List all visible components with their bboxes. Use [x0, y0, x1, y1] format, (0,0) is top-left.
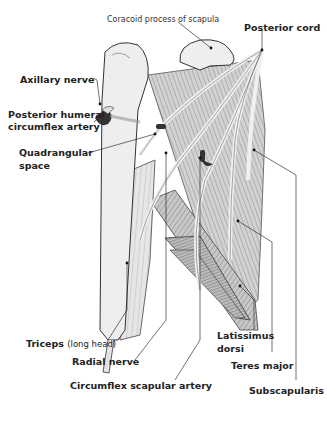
label-latissimus-2: dorsi	[217, 343, 244, 355]
label-triceps-sub: (long head)	[67, 339, 116, 349]
label-coracoid: Coracoid process of scapula	[107, 14, 219, 26]
shoulder-illustration	[0, 0, 327, 422]
label-axillary-nerve: Axillary nerve	[20, 74, 94, 86]
label-posterior-cord: Posterior cord	[244, 22, 320, 34]
label-triceps: Triceps (long head)	[26, 338, 116, 350]
label-subscapularis: Subscapularis	[249, 385, 324, 397]
label-quadrangular-2: space	[19, 160, 50, 172]
label-teres-major: Teres major	[231, 360, 294, 372]
label-posterior-humeral-1: Posterior humeral	[8, 109, 105, 121]
label-radial-nerve: Radial nerve	[72, 356, 139, 368]
label-quadrangular-1: Quadrangular	[19, 147, 93, 159]
coracoid-process	[180, 40, 234, 70]
label-triceps-name: Triceps	[26, 338, 64, 349]
label-latissimus-1: Latissimus	[217, 330, 274, 342]
label-posterior-humeral-2: circumflex artery	[8, 121, 100, 133]
anatomy-diagram: Coracoid process of scapula Posterior co…	[0, 0, 327, 422]
label-circumflex-scapular: Circumflex scapular artery	[70, 380, 212, 392]
